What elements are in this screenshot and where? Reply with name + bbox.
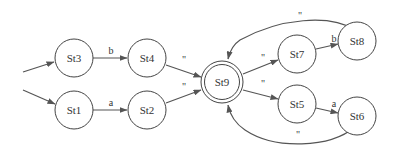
edge-st1-st2: a (93, 97, 127, 110)
state-st2: St2 (128, 91, 166, 129)
state-label: St4 (140, 52, 155, 64)
edge-label: a (332, 98, 337, 109)
state-st5: St5 (278, 85, 316, 123)
state-label: St7 (290, 48, 305, 60)
state-st1: St1 (55, 91, 93, 129)
state-label: St8 (350, 35, 365, 47)
edge-label: a (109, 97, 114, 108)
edge-st2-st9: " (166, 81, 201, 103)
state-label: St2 (140, 104, 155, 116)
edge-label: " (298, 10, 302, 21)
edge-st5-st6: a (316, 98, 338, 113)
edge-label: " (261, 78, 265, 89)
state-st4: St4 (128, 39, 166, 77)
edge-st3-st4: b (93, 45, 127, 58)
edge-label: " (296, 129, 300, 140)
edge-st7-st8: b (316, 33, 338, 49)
edge-st4-st9: " (166, 54, 201, 77)
edge-start-st1 (23, 90, 55, 104)
state-label: St1 (67, 104, 82, 116)
edge-label: b (109, 45, 114, 56)
state-label: St9 (215, 76, 230, 88)
state-st6: St6 (338, 97, 376, 135)
edge-label: " (182, 54, 186, 65)
edge-start-st3 (23, 62, 54, 72)
edge-st9-st5: " (243, 78, 278, 99)
state-st3: St3 (55, 39, 93, 77)
edge-label: " (182, 81, 186, 92)
state-label: St3 (67, 52, 82, 64)
edge-label: b (332, 33, 337, 44)
edge-st9-st7: " (243, 52, 278, 74)
automaton-diagram: b a " " " " b a " " St3 St4 (0, 0, 412, 156)
state-st9-accepting: St9 (201, 61, 243, 103)
state-label: St5 (290, 98, 305, 110)
edge-label: " (261, 52, 265, 63)
state-label: St6 (350, 110, 365, 122)
state-st7: St7 (278, 35, 316, 73)
state-st8: St8 (338, 22, 376, 60)
